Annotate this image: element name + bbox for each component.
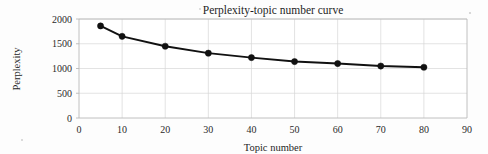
x-tick-label: 50 bbox=[290, 124, 300, 135]
data-point-marker bbox=[291, 58, 297, 64]
scan-speck bbox=[21, 139, 23, 141]
chart-title: Perplexity-topic number curve bbox=[203, 4, 344, 17]
data-point-marker bbox=[97, 23, 103, 29]
perplexity-topic-number-chart: Perplexity-topic number curve 0500100015… bbox=[0, 0, 488, 154]
x-tick-label: 30 bbox=[203, 124, 213, 135]
scan-speck bbox=[199, 8, 201, 10]
chart-title-group: Perplexity-topic number curve bbox=[203, 4, 344, 17]
x-tick-label: 60 bbox=[333, 124, 343, 135]
data-point-marker bbox=[248, 55, 254, 61]
data-point-marker bbox=[119, 33, 125, 39]
y-tick-label: 1000 bbox=[52, 63, 72, 74]
scan-speck bbox=[469, 12, 471, 14]
data-point-marker bbox=[205, 50, 211, 56]
data-point-marker bbox=[378, 63, 384, 69]
y-tick-label: 0 bbox=[67, 113, 72, 124]
x-tick-label: 20 bbox=[160, 124, 170, 135]
x-tick-label: 10 bbox=[117, 124, 127, 135]
y-tick-label: 500 bbox=[57, 88, 72, 99]
x-tick-label: 40 bbox=[246, 124, 256, 135]
y-tick-label: 2000 bbox=[52, 14, 72, 25]
x-axis-title: Topic number bbox=[244, 142, 303, 153]
chart-canvas: Perplexity-topic number curve 0500100015… bbox=[0, 0, 488, 154]
y-axis-title: Perplexity bbox=[11, 47, 22, 91]
x-tick-label: 80 bbox=[419, 124, 429, 135]
y-tick-label: 1500 bbox=[52, 38, 72, 49]
data-point-marker bbox=[421, 64, 427, 70]
data-point-marker bbox=[162, 43, 168, 49]
x-tick-label: 0 bbox=[77, 124, 82, 135]
x-tick-label: 70 bbox=[376, 124, 386, 135]
x-tick-label: 90 bbox=[462, 124, 472, 135]
data-point-marker bbox=[335, 60, 341, 66]
